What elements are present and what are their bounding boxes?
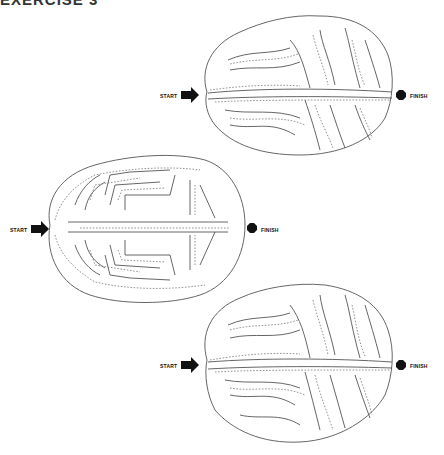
middle-finish-label: FINISH [261,227,279,233]
bottom-finish-stop-icon [396,360,406,370]
top-finish-label: FINISH [410,93,428,99]
top-finish-stop-icon [396,90,406,100]
bottom-start-arrow-icon [181,357,199,373]
bottom-finish-label: FINISH [410,363,428,369]
middle-start-label: START [10,227,27,233]
middle-start-arrow-icon [31,221,49,237]
middle-finish-stop-icon [247,223,257,233]
top-start-arrow-icon [181,87,199,103]
bottom-start-label: START [160,363,177,369]
markers [0,0,444,455]
